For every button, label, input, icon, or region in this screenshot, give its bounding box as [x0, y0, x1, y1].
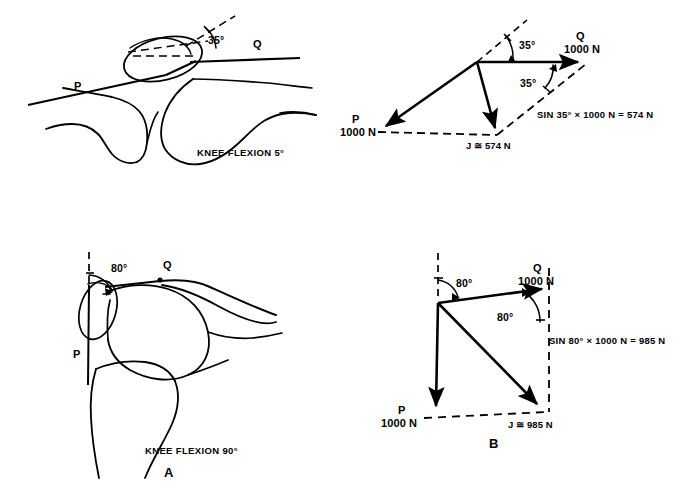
vector-p-arrow [386, 62, 477, 126]
label-vector-p-a: P [352, 113, 359, 125]
label-angle-lower-b: 80° [497, 312, 513, 324]
label-vector-q-b: Q [533, 262, 542, 274]
label-quadriceps-tendon-a: Q [253, 38, 262, 50]
label-vector-p-magnitude-a: 1000 N [340, 126, 376, 138]
patellar-tendon-line [88, 285, 89, 385]
label-angle-upper-a: 35° [519, 40, 535, 52]
dashed-base-b [424, 412, 546, 418]
label-quadriceps-tendon-b: Q [163, 259, 172, 271]
vector-j-arrow [477, 62, 495, 128]
label-vector-p-b: P [398, 404, 405, 416]
figure-linework [0, 0, 698, 488]
label-vector-q-magnitude-b: 1000 N [518, 275, 554, 287]
equation-sin-35: SIN 35° × 1000 N = 574 N [537, 110, 653, 121]
figure-root: P Q 35° KNEE FLEXION 5° 35° 35° Q 1000 N… [0, 0, 698, 488]
label-vector-q-a: Q [576, 30, 585, 42]
panel-label-b: B [489, 437, 499, 452]
label-resultant-j-b: J ≅ 985 N [508, 420, 553, 431]
label-angle-anatomy-a: 35° [208, 35, 224, 47]
label-vector-p-magnitude-b: 1000 N [381, 417, 417, 429]
vector-j-arrow-b [438, 303, 537, 404]
label-patellar-tendon-a: P [74, 80, 81, 92]
knee-anatomy-5deg [28, 16, 316, 164]
caption-knee-flexion-5: KNEE FLEXION 5° [197, 148, 284, 159]
label-vector-q-magnitude-a: 1000 N [564, 43, 600, 55]
vector-p-arrow-b [436, 303, 438, 406]
dashed-side [497, 64, 586, 135]
caption-knee-flexion-90: KNEE FLEXION 90° [145, 446, 238, 457]
panel-label-a: A [164, 466, 174, 481]
label-patellar-tendon-b: P [73, 348, 80, 360]
label-angle-lower-a: 35° [520, 78, 536, 90]
equation-sin-80: SIN 80° × 1000 N = 985 N [549, 336, 665, 347]
label-angle-anatomy-b: 80° [111, 263, 127, 275]
label-angle-upper-b: 80° [456, 278, 472, 290]
dashed-base [378, 132, 497, 135]
label-resultant-j-a: J ≅ 574 N [466, 141, 511, 152]
